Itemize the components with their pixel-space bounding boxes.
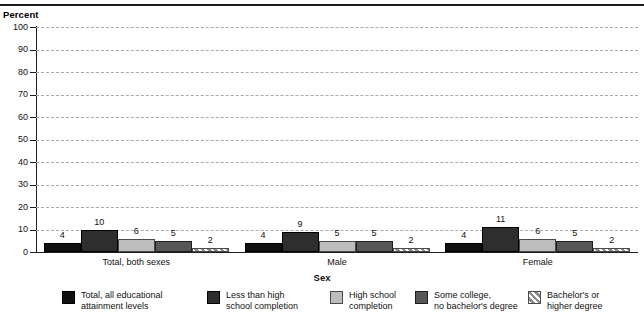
bar-value-label: 5: [354, 229, 394, 238]
x-axis-group-label: Total, both sexes: [36, 257, 236, 267]
bar-value-label: 4: [444, 231, 484, 240]
legend-item[interactable]: High school completion: [330, 290, 396, 311]
legend-label: Some college, no bachelor's degree: [434, 290, 518, 311]
bar[interactable]: [319, 241, 356, 252]
bar[interactable]: [593, 248, 630, 253]
x-axis-group-label: Male: [237, 257, 437, 267]
y-axis-tick-label: 90: [2, 45, 28, 54]
y-axis-tick-label: 80: [2, 68, 28, 77]
bar-value-label: 5: [153, 229, 193, 238]
bar[interactable]: [282, 232, 319, 252]
bar-value-label: 6: [116, 227, 156, 236]
bar-value-label: 4: [42, 231, 82, 240]
bar[interactable]: [356, 241, 393, 252]
y-axis-tick-label: 100: [2, 23, 28, 32]
bar-value-label: 2: [391, 236, 431, 245]
legend-item[interactable]: Less than high school completion: [207, 290, 298, 311]
legend-swatch-icon: [62, 291, 75, 304]
bar[interactable]: [81, 230, 118, 253]
bar-value-label: 6: [518, 227, 558, 236]
y-axis-tick-label: 10: [2, 225, 28, 234]
x-axis-group-label: Female: [438, 257, 638, 267]
bar[interactable]: [44, 243, 81, 252]
y-axis-tick-label: 0: [2, 248, 28, 257]
legend-label: Less than high school completion: [226, 290, 298, 311]
bar[interactable]: [445, 243, 482, 252]
x-axis-line: [36, 252, 638, 253]
bar[interactable]: [556, 241, 593, 252]
y-axis-tick-label: 20: [2, 203, 28, 212]
y-axis-unit-label: Percent: [3, 9, 39, 20]
y-axis-tick-label: 70: [2, 90, 28, 99]
bar[interactable]: [245, 243, 282, 252]
y-axis-tick-label: 50: [2, 135, 28, 144]
chart-legend: Total, all educational attainment levels…: [0, 290, 644, 318]
legend-swatch-icon: [528, 291, 541, 304]
legend-item[interactable]: Total, all educational attainment levels: [62, 290, 163, 311]
legend-item[interactable]: Some college, no bachelor's degree: [415, 290, 518, 311]
bar[interactable]: [118, 239, 155, 253]
bar-value-label: 5: [317, 229, 357, 238]
bar-value-label: 5: [555, 229, 595, 238]
bar-value-label: 2: [592, 236, 632, 245]
bar-value-label: 2: [190, 236, 230, 245]
bar-value-label: 10: [79, 218, 119, 227]
y-axis-tick-label: 60: [2, 113, 28, 122]
y-axis-tick-mark: [30, 252, 36, 253]
plot-area: 41065249552411652: [36, 27, 638, 252]
legend-item[interactable]: Bachelor's or higher degree: [528, 290, 603, 311]
bar[interactable]: [192, 248, 229, 253]
y-axis-tick-label: 40: [2, 158, 28, 167]
bar[interactable]: [482, 227, 519, 252]
x-axis-title: Sex: [0, 272, 644, 283]
top-divider-rule: [0, 4, 644, 6]
legend-swatch-icon: [207, 291, 220, 304]
bar-value-label: 9: [280, 220, 320, 229]
legend-swatch-icon: [330, 291, 343, 304]
legend-label: Bachelor's or higher degree: [547, 290, 603, 311]
bar[interactable]: [519, 239, 556, 253]
bar-value-label: 4: [243, 231, 283, 240]
bar[interactable]: [393, 248, 430, 253]
legend-swatch-icon: [415, 291, 428, 304]
y-axis-tick-label: 30: [2, 180, 28, 189]
bar[interactable]: [155, 241, 192, 252]
bar-value-label: 11: [481, 215, 521, 224]
legend-label: Total, all educational attainment levels: [81, 290, 163, 311]
legend-label: High school completion: [349, 290, 396, 311]
